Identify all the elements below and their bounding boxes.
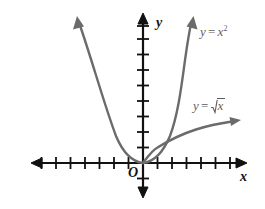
sqrt-arrow-right xyxy=(230,117,242,126)
y-axis-arrow-down xyxy=(138,187,148,198)
parabola-arrow-right xyxy=(187,16,198,30)
radical-sign-icon xyxy=(211,98,218,114)
radical-overbar-icon xyxy=(217,98,225,99)
x-axis-arrow-right xyxy=(236,158,247,168)
radicand: x xyxy=(218,98,224,113)
x-axis-label: x xyxy=(240,170,247,184)
x-axis-arrow-left xyxy=(31,158,42,168)
parabola-label-operator: = xyxy=(206,24,218,39)
radical-expression: x xyxy=(211,98,225,114)
parabola-label-exponent: 2 xyxy=(224,24,228,33)
origin-label: O xyxy=(128,166,138,180)
parabola-equation-label: y=x2 xyxy=(200,24,228,40)
y-axis-label: y xyxy=(156,16,162,30)
curve-parabola xyxy=(80,24,192,163)
sqrt-label-operator: = xyxy=(199,98,211,113)
graph-figure: y x O y=x2 y= x xyxy=(0,0,265,209)
y-axis-arrow-up xyxy=(138,13,148,24)
parabola-arrow-left xyxy=(73,16,84,30)
sqrt-equation-label: y= x xyxy=(193,98,225,114)
